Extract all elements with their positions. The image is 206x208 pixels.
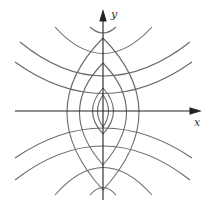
sweep-curve (20, 42, 190, 76)
lens-curve (80, 63, 104, 165)
x-axis-arrow-icon (190, 108, 200, 114)
x-axis-label: x (194, 117, 200, 128)
y-axis-arrow-icon (100, 11, 106, 21)
y-axis-label: y (111, 9, 117, 20)
parabola-diagram (0, 0, 206, 208)
lens-curve (103, 63, 127, 165)
